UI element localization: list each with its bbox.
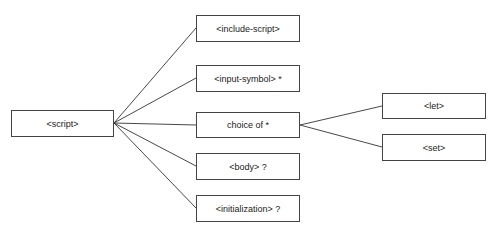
edge-choice-let [300,106,382,125]
node-input-symbol: <input-symbol> * [196,65,300,92]
node-initialization: <initialization> ? [196,195,300,222]
edge-script-choice-of [114,123,196,125]
node-set: <set> [382,134,486,161]
node-let: <let> [382,93,486,119]
node-choice-of: choice of * [196,112,300,138]
edge-script-include-script [114,28,196,123]
node-script: <script> [11,110,114,137]
node-label: <include-script> [216,24,280,34]
edge-script-initialization [114,123,196,208]
node-label: <let> [424,101,444,111]
node-label: <initialization> ? [216,204,281,214]
node-label: <body> ? [229,162,267,172]
node-label: choice of * [227,120,269,130]
node-label: <script> [46,119,78,129]
edge-script-input-symbol [114,78,196,123]
edge-choice-set [300,125,382,147]
node-label: <input-symbol> * [214,74,282,84]
node-body: <body> ? [196,153,300,180]
node-label: <set> [423,143,446,153]
edge-script-body [114,123,196,166]
node-include-script: <include-script> [196,15,300,42]
